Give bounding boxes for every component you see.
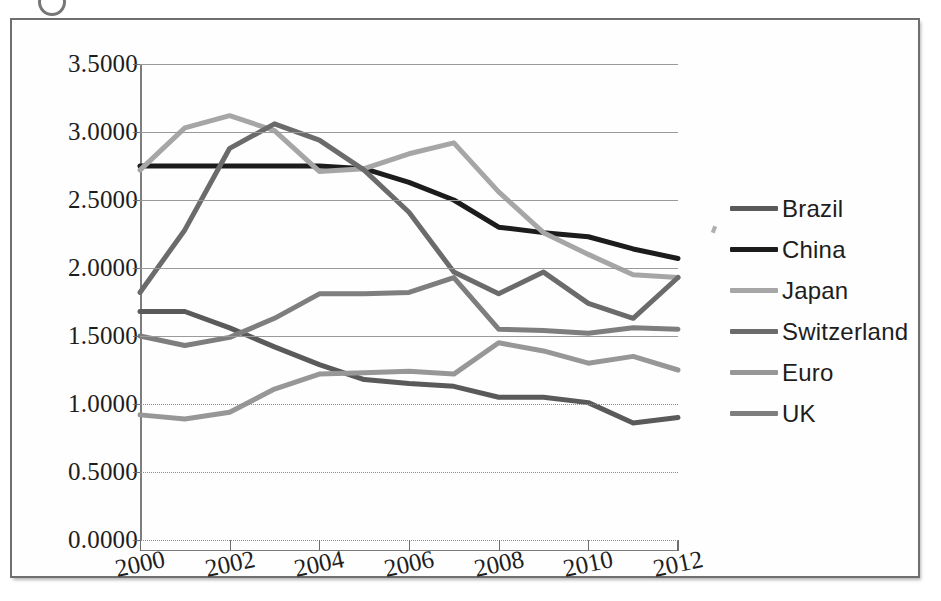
legend-item-label: Japan — [782, 277, 848, 305]
series-line-brazil — [140, 312, 678, 424]
y-tick-mark — [133, 64, 140, 65]
y-axis-tick-label: 3.5000 — [68, 50, 138, 78]
scan-speck — [711, 226, 717, 234]
y-tick-mark — [133, 404, 140, 405]
gridline — [140, 268, 678, 269]
legend-item-switzerland[interactable]: Switzerland — [730, 311, 910, 352]
x-axis-tick-label: 2012 — [651, 545, 706, 583]
chart-legend: BrazilChinaJapanSwitzerlandEuroUK — [730, 188, 910, 434]
legend-item-euro[interactable]: Euro — [730, 352, 910, 393]
plot-wrapper: 3.50003.00002.50002.00001.50001.00000.50… — [12, 20, 918, 576]
legend-item-label: Switzerland — [782, 318, 908, 346]
y-axis-tick-label: 0.5000 — [68, 458, 138, 486]
gridline — [140, 336, 678, 337]
gridline — [140, 200, 678, 201]
y-tick-mark — [133, 200, 140, 201]
legend-item-brazil[interactable]: Brazil — [730, 188, 910, 229]
gridline — [140, 472, 678, 473]
series-line-japan — [140, 116, 678, 278]
legend-item-uk[interactable]: UK — [730, 393, 910, 434]
legend-item-label: China — [782, 236, 846, 264]
x-axis-labels: 2000200220042006200820102012 — [140, 550, 700, 596]
gridline — [140, 64, 678, 65]
x-axis-tick-label: 2002 — [202, 545, 257, 583]
legend-line-icon — [730, 206, 778, 211]
y-axis-tick-label: 1.5000 — [68, 322, 138, 350]
y-tick-mark — [133, 336, 140, 337]
legend-item-label: Brazil — [782, 195, 843, 223]
legend-item-label: Euro — [782, 359, 834, 387]
y-axis-tick-label: 1.0000 — [68, 390, 138, 418]
y-tick-mark — [133, 132, 140, 133]
x-axis-tick-label: 2008 — [471, 545, 526, 583]
y-tick-mark — [133, 268, 140, 269]
legend-line-icon — [730, 370, 778, 375]
legend-line-icon — [730, 247, 778, 252]
gridline — [140, 404, 678, 405]
legend-line-icon — [730, 288, 778, 293]
y-axis-tick-label: 0.0000 — [68, 526, 138, 554]
series-lines — [140, 64, 678, 540]
x-axis-tick-label: 2010 — [561, 545, 616, 583]
legend-line-icon — [730, 411, 778, 416]
chart-frame: 3.50003.00002.50002.00001.50001.00000.50… — [10, 18, 920, 578]
x-axis-tick-label: 2004 — [292, 545, 347, 583]
x-axis-tick-label: 2006 — [382, 545, 437, 583]
legend-item-label: UK — [782, 400, 816, 428]
y-tick-mark — [133, 472, 140, 473]
y-axis-tick-label: 2.0000 — [68, 254, 138, 282]
legend-line-icon — [730, 329, 778, 334]
y-axis-tick-label: 3.0000 — [68, 118, 138, 146]
y-axis-labels: 3.50003.00002.50002.00001.50001.00000.50… — [26, 20, 138, 576]
y-tick-mark — [133, 540, 140, 541]
plot-area — [140, 64, 678, 540]
gridline — [140, 132, 678, 133]
legend-item-japan[interactable]: Japan — [730, 270, 910, 311]
scan-artifact — [38, 0, 66, 16]
legend-item-china[interactable]: China — [730, 229, 910, 270]
y-axis-tick-label: 2.5000 — [68, 186, 138, 214]
